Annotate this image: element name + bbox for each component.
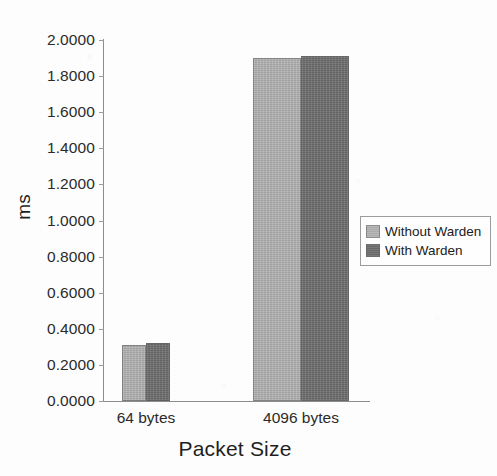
y-axis-tick-label: 0.0000 — [33, 393, 95, 409]
y-axis-tick-label: 0.2000 — [33, 357, 95, 373]
legend-color-swatch — [366, 244, 380, 257]
bar-group — [253, 40, 349, 401]
y-axis-tick-label: 0.8000 — [33, 249, 95, 265]
legend-item: With Warden — [366, 241, 486, 260]
x-axis-tick-label: 4096 bytes — [241, 409, 361, 427]
legend-label: With Warden — [385, 243, 463, 258]
bar — [301, 56, 349, 401]
plot-area — [104, 40, 389, 401]
y-axis-tick-label: 0.4000 — [33, 321, 95, 337]
y-axis-tick-label: 1.4000 — [33, 140, 95, 156]
legend-color-swatch — [366, 225, 380, 238]
y-axis-tick-mark — [99, 257, 104, 258]
y-axis-tick-mark — [99, 401, 104, 402]
y-axis-tick-label: 1.2000 — [33, 176, 95, 192]
x-axis-tick-label: 64 bytes — [86, 409, 206, 427]
legend: Without WardenWith Warden — [360, 216, 491, 266]
y-axis-tick-mark — [99, 148, 104, 149]
y-axis-tick-labels: 2.00001.80001.60001.40001.20001.00000.80… — [29, 0, 95, 476]
x-axis-title: Packet Size — [0, 437, 470, 461]
y-axis-tick-mark — [99, 76, 104, 77]
y-axis-tick-mark — [99, 112, 104, 113]
y-axis-tick-label: 1.8000 — [33, 68, 95, 84]
bar — [253, 58, 301, 401]
y-axis-tick-mark — [99, 221, 104, 222]
y-axis-tick-label: 0.6000 — [33, 285, 95, 301]
y-axis-tick-label: 2.0000 — [33, 32, 95, 48]
y-axis-tick-mark — [99, 40, 104, 41]
bar-group — [122, 40, 170, 401]
x-axis-line — [103, 401, 370, 402]
legend-label: Without Warden — [385, 224, 481, 239]
y-axis-tick-mark — [99, 365, 104, 366]
y-axis-tick-mark — [99, 329, 104, 330]
bar — [146, 343, 170, 401]
y-axis-tick-mark — [99, 293, 104, 294]
legend-item: Without Warden — [366, 222, 486, 241]
y-axis-tick-label: 1.6000 — [33, 104, 95, 120]
y-axis-tick-mark — [99, 184, 104, 185]
bar-chart: ms 2.00001.80001.60001.40001.20001.00000… — [0, 0, 497, 476]
y-axis-tick-label: 1.0000 — [33, 213, 95, 229]
bar — [122, 345, 146, 401]
